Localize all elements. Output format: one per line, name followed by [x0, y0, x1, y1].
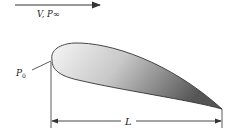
stagnation-label: P0: [15, 68, 26, 79]
airfoil-shape: [52, 43, 222, 109]
airfoil-diagram: V, P∞ P0 L: [0, 0, 233, 136]
length-label: L: [124, 116, 132, 127]
flow-label: V, P∞: [37, 9, 60, 19]
stagnation-leader: [32, 61, 51, 70]
